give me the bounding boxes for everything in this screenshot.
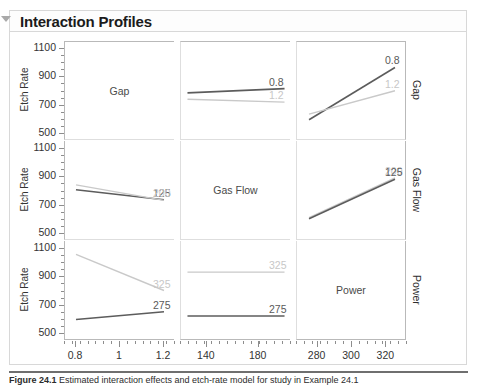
profile-lines [297,141,406,240]
y-tick-label: 1100 [12,241,56,253]
x-tick-mark-minor [150,341,151,344]
x-tick-label: 1.2 [143,349,183,361]
profile-lines [65,241,174,340]
profile-cell-diagonal-gas-flow: Gas Flow [180,141,290,240]
x-tick-mark-minor [304,341,305,344]
profile-lines [181,241,290,340]
x-tick-mark-minor [196,341,197,344]
diagonal-factor-label: Gap [65,85,174,97]
x-tick-mark-minor [375,341,376,344]
x-tick-mark-minor [166,341,167,344]
caption-label: Figure 24.1 [9,375,57,385]
y-tick-mark-minor [61,198,64,199]
x-tick-mark-minor [335,341,336,344]
y-tick-mark-minor [61,326,64,327]
y-tick-mark [59,176,64,177]
x-tick-mark [206,341,207,347]
y-tick-label: 1100 [12,41,56,53]
x-tick-mark-minor [88,341,89,344]
y-tick-mark-minor [61,312,64,313]
profile-cell-diagonal-gap: Gap [64,41,174,140]
y-tick-label: 500 [12,226,56,238]
y-tick-label: 900 [12,269,56,281]
y-tick-mark-minor [61,255,64,256]
x-tick-mark-minor [359,341,360,344]
series-value-label-200: 200 [153,187,171,199]
y-tick-mark [59,105,64,106]
x-tick-mark-minor [390,341,391,344]
x-tick-mark-minor [64,341,65,344]
y-tick-label: 500 [12,126,56,138]
row-factor-label-gas-flow: Gas Flow [410,140,422,239]
series-value-label-1.2: 1.2 [385,78,400,90]
page-title: Interaction Profiles [20,13,152,30]
row-factor-label-gap: Gap [410,40,422,139]
profile-cell-r1c0: 125200 [64,141,174,240]
y-tick-mark-minor [61,291,64,292]
x-tick-mark-minor [127,341,128,344]
x-tick-mark-minor [296,341,297,344]
x-tick-mark-minor [219,341,220,344]
profile-cell-r0c1: 0.81.2 [180,41,290,140]
y-tick-label: 500 [12,326,56,338]
x-tick-mark-minor [95,341,96,344]
x-tick-mark-minor [290,341,291,344]
diagonal-factor-label: Gas Flow [181,184,290,196]
x-tick-mark-minor [119,341,120,344]
plot-frame: Gap0.81.20.81.2125200Gas Flow20012532527… [9,32,467,365]
series-line-125 [309,179,395,219]
x-tick-mark-minor [235,341,236,344]
series-line-325 [76,254,164,290]
y-tick-mark-minor [61,162,64,163]
x-tick-mark-minor [312,341,313,344]
x-tick-mark [385,341,386,347]
y-tick-mark-minor [61,83,64,84]
series-value-label-325: 325 [269,259,287,271]
y-tick-mark-minor [61,262,64,263]
panel-title-bar: Interaction Profiles [9,10,467,32]
caption-text: Estimated interaction effects and etch-r… [59,375,359,385]
series-value-label-325: 325 [153,278,171,290]
x-tick-mark-minor [406,341,407,344]
profile-cell-r0c2: 0.81.2 [296,41,406,140]
x-tick-mark-minor [111,341,112,344]
x-tick-mark-minor [266,341,267,344]
triangle-down-icon[interactable] [1,16,11,22]
figure-caption: Figure 24.1 Estimated interaction effect… [9,375,469,385]
caption-rule [9,371,468,373]
x-tick-mark-minor [398,341,399,344]
x-tick-mark-minor [135,341,136,344]
x-tick-mark-minor [204,341,205,344]
y-tick-mark-minor [61,169,64,170]
x-tick-mark-minor [274,341,275,344]
profile-cell-r1c2: 200125 [296,141,406,240]
x-tick-label: 0.8 [55,349,95,361]
y-tick-mark [59,276,64,277]
x-tick-mark-minor [103,341,104,344]
series-value-label-0.8: 0.8 [385,54,400,66]
series-value-label-0.8: 0.8 [269,76,284,88]
y-tick-mark-minor [61,69,64,70]
y-tick-label: 1100 [12,141,56,153]
y-tick-mark [59,233,64,234]
y-tick-mark-minor [61,183,64,184]
x-tick-mark [75,341,76,347]
diagonal-factor-label: Power [297,284,405,296]
y-tick-mark-minor [61,119,64,120]
x-tick-mark-minor [188,341,189,344]
series-value-label-275: 275 [153,299,171,311]
x-tick-mark-minor [80,341,81,344]
y-tick-label: 900 [12,69,56,81]
y-tick-mark-minor [61,126,64,127]
y-tick-mark [59,333,64,334]
x-tick-label: 140 [186,349,226,361]
y-tick-label: 900 [12,169,56,181]
x-tick-mark-minor [343,341,344,344]
x-tick-mark-minor [320,341,321,344]
profile-cell-diagonal-power: Power [296,241,406,340]
x-tick-mark-minor [243,341,244,344]
y-tick-mark-minor [61,91,64,92]
y-tick-mark-minor [61,112,64,113]
y-tick-mark-minor [61,269,64,270]
series-value-label-275: 275 [269,303,287,315]
